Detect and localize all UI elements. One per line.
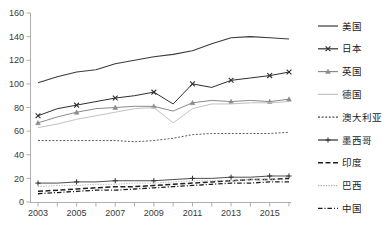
legend-item-0[interactable]: 美国 (318, 21, 362, 32)
series-2 (36, 97, 292, 125)
x-tick-label: 2015 (260, 208, 280, 218)
legend-label: 英国 (342, 66, 362, 77)
y-axis-ticks (27, 13, 31, 202)
y-tick-label: 100 (9, 79, 24, 89)
x-axis-group: 2003200520072009201120132015 (28, 203, 291, 219)
series-line (38, 180, 289, 187)
chart-canvas: 020406080100120140160 200320052007200920… (0, 0, 388, 233)
legend-label: 中国 (342, 203, 362, 214)
x-tick-label: 2009 (144, 208, 164, 218)
data-point-marker (325, 137, 330, 142)
series-1 (36, 70, 292, 119)
series-0 (38, 37, 289, 83)
series-line (38, 182, 289, 194)
y-axis-tick-labels: 020406080100120140160 (9, 8, 24, 207)
y-tick-label: 140 (9, 32, 24, 42)
x-axis-tick-labels: 2003200520072009201120132015 (28, 208, 280, 218)
series-line (38, 72, 289, 116)
legend-item-8[interactable]: 中国 (318, 203, 362, 214)
series-layer (35, 37, 291, 194)
data-point-marker (267, 173, 272, 178)
series-4 (38, 132, 289, 141)
x-axis-ticks (38, 203, 289, 207)
y-tick-label: 0 (19, 197, 24, 207)
legend-label: 巴西 (342, 180, 362, 191)
data-point-marker (36, 113, 41, 118)
data-point-marker (74, 179, 79, 184)
series-5 (35, 173, 291, 185)
data-point-marker (228, 175, 233, 180)
series-line (38, 37, 289, 83)
y-tick-label: 120 (9, 55, 24, 65)
legend-item-2[interactable]: 英国 (318, 66, 362, 77)
legend-label: 美国 (342, 21, 362, 32)
x-tick-label: 2007 (105, 208, 125, 218)
legend-label: 墨西哥 (342, 135, 372, 146)
data-point-marker (190, 176, 195, 181)
data-point-marker (35, 181, 40, 186)
x-tick-label: 2003 (28, 208, 48, 218)
legend-item-6[interactable]: 印度 (318, 157, 362, 168)
legend-item-3[interactable]: 德国 (318, 89, 362, 100)
series-7 (38, 180, 289, 187)
x-tick-label: 2005 (67, 208, 87, 218)
series-line (38, 132, 289, 141)
y-tick-label: 60 (14, 126, 24, 136)
legend-item-1[interactable]: 日本 (318, 43, 362, 54)
x-tick-label: 2011 (183, 208, 202, 218)
legend-label: 德国 (342, 89, 362, 100)
x-tick-label: 2013 (221, 208, 241, 218)
legend-item-7[interactable]: 巴西 (318, 180, 362, 191)
y-tick-label: 20 (14, 174, 24, 184)
y-tick-label: 80 (14, 103, 24, 113)
series-8 (38, 182, 289, 194)
legend-label: 印度 (342, 157, 362, 168)
legend-label: 日本 (342, 43, 362, 54)
data-point-marker (113, 178, 118, 183)
legend-item-4[interactable]: 澳大利亚 (318, 112, 382, 123)
y-tick-label: 160 (9, 8, 24, 18)
line-chart: 020406080100120140160 200320052007200920… (0, 0, 388, 233)
y-tick-label: 40 (14, 150, 24, 160)
y-axis-group: 020406080100120140160 (9, 8, 31, 207)
legend-label: 澳大利亚 (342, 112, 382, 123)
legend-item-5[interactable]: 墨西哥 (318, 135, 372, 146)
chart-legend: 美国日本英国德国澳大利亚墨西哥印度巴西中国 (318, 21, 382, 214)
